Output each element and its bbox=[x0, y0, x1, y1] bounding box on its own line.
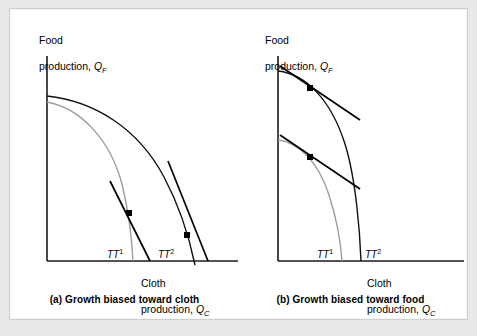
chart-panel-b: Food production, QF Cloth production, QC… bbox=[236, 9, 465, 321]
curve-label-tt2-a: TT2 bbox=[158, 248, 174, 260]
y-axis-label-b: Food production, QF bbox=[265, 21, 333, 77]
curve-label-tt1-a: TT1 bbox=[107, 248, 123, 260]
tangency-point-tt1-b bbox=[307, 154, 313, 160]
tangency-point-tt1-a bbox=[126, 210, 132, 216]
x-axis-label-a: Cloth production, QC bbox=[141, 264, 209, 320]
curve-tt2-b bbox=[278, 71, 361, 261]
curve-label-tt1-b: TT1 bbox=[317, 248, 333, 260]
x-axis-label-b: Cloth production, QC bbox=[367, 264, 435, 320]
tangent-line-1-b bbox=[280, 135, 360, 189]
tangent-line-2-a bbox=[168, 161, 208, 261]
tangency-point-tt2-b bbox=[307, 85, 313, 91]
figure-panel-container: Food production, QF Cloth production, QC… bbox=[9, 8, 468, 320]
panel-caption-a: (a) Growth biased toward cloth bbox=[10, 294, 239, 305]
chart-panel-a: Food production, QF Cloth production, QC… bbox=[10, 9, 239, 321]
curve-tt1-a bbox=[47, 102, 133, 261]
tangency-point-tt2-a bbox=[184, 232, 190, 238]
panel-caption-b: (b) Growth biased toward food bbox=[236, 294, 465, 305]
y-axis-label-a: Food production, QF bbox=[39, 21, 107, 77]
curve-label-tt2-b: TT2 bbox=[365, 248, 381, 260]
figure-outer-background: Food production, QF Cloth production, QC… bbox=[0, 0, 477, 336]
